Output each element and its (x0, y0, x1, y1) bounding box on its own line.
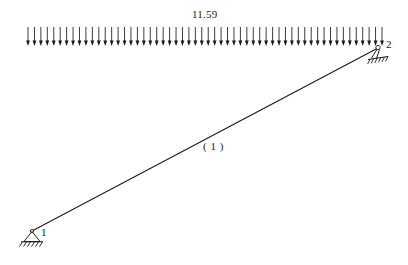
load-arrow-head (78, 40, 82, 46)
member-label: ( 1 ) (203, 140, 224, 152)
distributed-load-magnitude-label: 11.59 (192, 8, 217, 20)
load-arrow-head (264, 40, 268, 46)
node-label-2: 2 (386, 38, 392, 50)
load-arrow-head (39, 40, 43, 46)
load-arrow-head (206, 40, 210, 46)
load-arrow-head (354, 40, 358, 46)
load-arrow-head (33, 40, 37, 46)
beam-load-diagram-svg (0, 0, 408, 265)
load-arrow-head (110, 40, 114, 46)
load-arrow-head (213, 40, 217, 46)
load-arrow-head (71, 40, 75, 46)
load-arrow-head (348, 40, 352, 46)
load-arrow-head (174, 40, 178, 46)
load-arrow-head (52, 40, 56, 46)
load-arrow-head (45, 40, 49, 46)
load-arrow-head (380, 40, 384, 46)
load-arrow-head (251, 40, 255, 46)
load-arrow-head (245, 40, 249, 46)
load-arrow-head (123, 40, 127, 46)
load-arrow-head (341, 40, 345, 46)
load-arrow-head (322, 40, 326, 46)
load-arrow-head (258, 40, 262, 46)
load-arrow-head (226, 40, 230, 46)
node-label-1: 1 (41, 226, 47, 238)
load-arrow-head (155, 40, 159, 46)
load-arrow-head (239, 40, 243, 46)
load-arrow-head (168, 40, 172, 46)
load-arrow-head (97, 40, 101, 46)
load-arrow-head (26, 40, 30, 46)
load-arrow-head (309, 40, 313, 46)
load-arrow-head (142, 40, 146, 46)
load-arrow-head (200, 40, 204, 46)
load-arrow-head (84, 40, 88, 46)
load-arrow-head (361, 40, 365, 46)
load-arrow-head (316, 40, 320, 46)
load-arrow-head (296, 40, 300, 46)
roller-support-node-2 (368, 45, 388, 64)
load-arrow-head (148, 40, 152, 46)
distributed-load-arrows (26, 27, 384, 46)
load-arrow-head (232, 40, 236, 46)
pinned-support-node-1 (20, 229, 44, 246)
load-arrow-head (367, 40, 371, 46)
load-arrow-head (136, 40, 140, 46)
load-arrow-head (187, 40, 191, 46)
load-arrow-head (65, 40, 69, 46)
structural-diagram-canvas: 11.59 ( 1 ) 1 2 (0, 0, 408, 265)
load-arrow-head (219, 40, 223, 46)
load-arrow-head (284, 40, 288, 46)
load-arrow-head (193, 40, 197, 46)
load-arrow-head (129, 40, 133, 46)
load-arrow-head (374, 40, 378, 46)
load-arrow-head (271, 40, 275, 46)
load-arrow-head (90, 40, 94, 46)
load-arrow-head (329, 40, 333, 46)
load-arrow-head (181, 40, 185, 46)
load-arrow-head (116, 40, 120, 46)
load-arrow-head (277, 40, 281, 46)
load-arrow-head (290, 40, 294, 46)
load-arrow-head (161, 40, 165, 46)
load-arrow-head (58, 40, 62, 46)
load-arrow-head (303, 40, 307, 46)
load-arrow-head (335, 40, 339, 46)
load-arrow-head (103, 40, 107, 46)
